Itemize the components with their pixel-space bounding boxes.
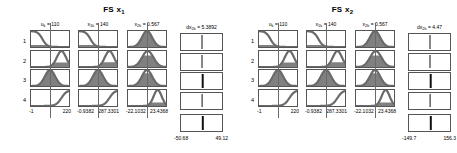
- output-bar: [430, 94, 431, 107]
- subscript: 2k: [192, 26, 196, 31]
- membership-plot-rule-4: [30, 89, 70, 107]
- membership-plot-rule-1: [355, 30, 395, 48]
- output-bar: [429, 55, 430, 68]
- subscript: 2k: [422, 26, 426, 31]
- axis-min-label: -0.9382: [77, 109, 94, 114]
- axis-max-label: 23.4368: [150, 109, 168, 114]
- output-header: dx2k = 5.3892: [186, 25, 217, 31]
- variable-header: x2k = 0.567: [363, 22, 388, 28]
- axis-min-label: -1: [29, 109, 33, 114]
- panel-title-text: FS x: [103, 5, 121, 14]
- membership-plot-rule-1: [78, 30, 118, 48]
- aggregate-output-plot: [180, 114, 223, 132]
- rule-number-1: 1: [251, 39, 254, 45]
- output-column: dx2k = 4.47-149.7156.3: [408, 33, 451, 134]
- membership-plot-rule-2: [30, 50, 70, 68]
- output-bar: [429, 74, 432, 87]
- membership-plot-rule-3: [355, 69, 395, 87]
- subscript: k: [44, 23, 46, 28]
- variable-column-x1k: x1k = 140-0.9382287.3301: [78, 30, 118, 108]
- rule-numbers-right: 1234: [251, 33, 258, 111]
- output-axis-min-label: -149.7: [402, 136, 416, 141]
- output-bar: [202, 35, 203, 48]
- membership-plot-rule-4: [258, 89, 298, 107]
- membership-plot-rule-2: [127, 50, 167, 68]
- aggregate-output-bar: [202, 116, 204, 129]
- panel-title-fs-x2: FS x2: [228, 5, 457, 15]
- output-plot-rule-3: [408, 72, 451, 90]
- membership-plot-rule-2: [306, 50, 346, 68]
- subscript: 1k: [318, 23, 322, 28]
- rule-number-4: 4: [251, 98, 254, 104]
- axis-min-label: -1: [257, 109, 261, 114]
- rule-number-3: 3: [23, 78, 26, 84]
- variable-column-uk: uk = 110-1220: [30, 30, 70, 108]
- membership-plot-rule-4: [127, 89, 167, 107]
- membership-plot-rule-3: [78, 69, 118, 87]
- rule-number-4: 4: [23, 98, 26, 104]
- panel-title-subscript: 1: [121, 9, 125, 15]
- output-axis-max-label: 156.3: [443, 136, 456, 141]
- variable-header: x1k = 140: [88, 22, 109, 28]
- axis-max-label: 220: [291, 109, 299, 114]
- output-axis-min-label: -50.68: [174, 136, 188, 141]
- axis-min-label: -22.1032: [126, 109, 146, 114]
- membership-plot-rule-1: [258, 30, 298, 48]
- panel-fs-x1: FS x1 1234 uk = 110-1220x1k = 140-0.9382…: [0, 0, 228, 153]
- axis-max-label: 23.4368: [378, 109, 396, 114]
- membership-plot-rule-4: [78, 89, 118, 107]
- fuzzy-rule-viewer-figure: FS x1 1234 uk = 110-1220x1k = 140-0.9382…: [0, 0, 457, 153]
- membership-plot-rule-1: [306, 30, 346, 48]
- variable-column-uk: uk = 110-1220: [258, 30, 298, 108]
- variable-column-x1k: x1k = 140-0.9382287.3301: [306, 30, 346, 108]
- panel-title-text: FS x: [332, 5, 350, 14]
- panel-title-subscript: 2: [350, 9, 354, 15]
- output-bar: [430, 35, 431, 48]
- axis-max-label: 287.3301: [98, 109, 119, 114]
- output-plot-rule-4: [408, 92, 451, 110]
- membership-plot-rule-1: [30, 30, 70, 48]
- membership-plot-rule-3: [258, 69, 298, 87]
- variable-header: x1k = 140: [316, 22, 337, 28]
- rule-number-2: 2: [251, 59, 254, 65]
- membership-plot-rule-3: [306, 69, 346, 87]
- panel-fs-x2: FS x2 1234 uk = 110-1220x1k = 140-0.9382…: [228, 0, 457, 153]
- variable-header: uk = 110: [41, 22, 59, 28]
- variable-header: uk = 110: [269, 22, 287, 28]
- axis-min-label: -0.9382: [305, 109, 322, 114]
- axis-max-label: 287.3301: [326, 109, 347, 114]
- subscript: 1k: [90, 23, 94, 28]
- output-plot-rule-4: [180, 92, 223, 110]
- rule-numbers-left: 1234: [23, 33, 30, 111]
- subscript: k: [272, 23, 274, 28]
- membership-plot-rule-3: [127, 69, 167, 87]
- membership-plot-rule-2: [258, 50, 298, 68]
- output-plot-rule-2: [180, 53, 223, 71]
- axis-min-label: -22.1032: [354, 109, 374, 114]
- output-plot-rule-3: [180, 72, 223, 90]
- variable-column-x2k: x2k = 0.567-22.103223.4368: [127, 30, 167, 108]
- rule-number-2: 2: [23, 59, 26, 65]
- membership-plot-rule-3: [30, 69, 70, 87]
- membership-plot-rule-1: [127, 30, 167, 48]
- membership-plot-rule-2: [78, 50, 118, 68]
- output-header: dx2k = 4.47: [417, 25, 442, 31]
- rule-number-3: 3: [251, 78, 254, 84]
- rule-number-1: 1: [23, 39, 26, 45]
- membership-plot-rule-4: [306, 89, 346, 107]
- output-plot-rule-1: [180, 33, 223, 51]
- aggregate-output-bar: [430, 116, 432, 129]
- output-bar: [202, 94, 203, 107]
- output-plot-rule-1: [408, 33, 451, 51]
- output-bar: [201, 55, 202, 68]
- membership-plot-rule-4: [355, 89, 395, 107]
- output-bar: [201, 74, 204, 87]
- subscript: 2k: [365, 23, 369, 28]
- output-column: dx2k = 5.3892-50.6849.12: [180, 33, 223, 134]
- variable-column-x2k: x2k = 0.567-22.103223.4368: [355, 30, 395, 108]
- variable-header: x2k = 0.567: [135, 22, 160, 28]
- output-axis-max-label: 49.12: [215, 136, 228, 141]
- panel-title-fs-x1: FS x1: [0, 5, 228, 15]
- membership-plot-rule-2: [355, 50, 395, 68]
- output-plot-rule-2: [408, 53, 451, 71]
